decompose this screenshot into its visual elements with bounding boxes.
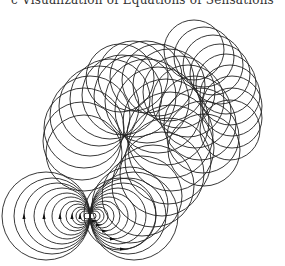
arrow-right-icon [96,223,102,226]
dipole-circle-left [44,193,90,239]
arrow-up-icon [78,213,81,219]
dipole-circle-left [80,211,90,221]
main-circle-chain [43,55,214,250]
arrowhead-markers [22,213,126,251]
dipole-circle-right [90,188,146,244]
dipole-circle-right [90,201,120,231]
dipole-circle-left [60,201,90,231]
chain-circle [152,65,224,137]
chain-circle [190,44,250,104]
arrow-up-icon [22,213,25,219]
dipole-circle-right [90,193,136,239]
circle-sweep-diagram [0,0,285,266]
arrow-up-icon [42,213,45,219]
chain-circle [105,59,189,143]
dipole-circle-left [34,188,90,244]
arrow-right-icon [102,229,108,232]
arrow-up-icon [58,213,61,219]
arrow-up-icon [70,213,73,219]
dipole-circle-cluster [2,172,178,260]
